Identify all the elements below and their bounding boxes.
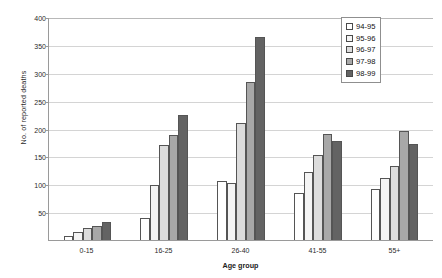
legend-label-97-98: 97-98 (356, 57, 375, 66)
legend-item-95-96[interactable]: 95-96 (346, 33, 375, 45)
bar-0-15-94-95[interactable] (64, 236, 74, 240)
bar-41-55-97-98[interactable] (323, 134, 333, 240)
legend-item-94-95[interactable]: 94-95 (346, 21, 375, 33)
bar-55+-97-98[interactable] (399, 131, 409, 240)
bar-0-15-96-97[interactable] (83, 228, 93, 240)
legend-swatch-98-99 (346, 70, 353, 77)
x-axis-title: Age group (48, 261, 433, 270)
y-tick-label-200: 200 (20, 126, 46, 133)
x-tick-label-26-40: 26-40 (202, 247, 279, 254)
legend: 94-9595-9696-9797-9898-99 (341, 17, 381, 83)
bar-55+-95-96[interactable] (380, 178, 390, 240)
bar-16-25-96-97[interactable] (159, 145, 169, 240)
x-tick-label-41-55: 41-55 (279, 247, 356, 254)
legend-swatch-94-95 (346, 23, 353, 30)
bars (140, 18, 188, 240)
legend-swatch-97-98 (346, 58, 353, 65)
x-axis-tick-labels: 0-1516-2526-4041-5555+ (48, 247, 433, 254)
bar-41-55-95-96[interactable] (304, 172, 314, 240)
bar-41-55-96-97[interactable] (313, 155, 323, 240)
bar-26-40-97-98[interactable] (246, 82, 256, 240)
x-tick-label-55+: 55+ (356, 247, 433, 254)
bar-16-25-94-95[interactable] (140, 218, 150, 240)
x-tick-label-16-25: 16-25 (125, 247, 202, 254)
bar-16-25-95-96[interactable] (150, 185, 160, 240)
legend-item-98-99[interactable]: 98-99 (346, 67, 375, 79)
bar-0-15-98-99[interactable] (102, 222, 112, 240)
bar-55+-96-97[interactable] (390, 166, 400, 240)
bar-chart: No. of reported deaths 50100150200250300… (0, 0, 442, 278)
x-tick-label-0-15: 0-15 (48, 247, 125, 254)
bar-group-0-15 (49, 18, 126, 240)
y-tick-label-50: 50 (20, 210, 46, 217)
bar-26-40-94-95[interactable] (217, 181, 227, 240)
legend-item-97-98[interactable]: 97-98 (346, 56, 375, 68)
bar-16-25-98-99[interactable] (178, 115, 188, 240)
y-tick-label-100: 100 (20, 182, 46, 189)
legend-swatch-95-96 (346, 35, 353, 42)
y-tick-label-400: 400 (20, 15, 46, 22)
bar-0-15-97-98[interactable] (92, 226, 102, 240)
y-tick-label-250: 250 (20, 98, 46, 105)
bar-26-40-98-99[interactable] (255, 37, 265, 240)
bar-55+-94-95[interactable] (371, 189, 381, 240)
bar-0-15-95-96[interactable] (73, 232, 83, 240)
bars (64, 18, 112, 240)
y-tick-label-150: 150 (20, 154, 46, 161)
legend-swatch-96-97 (346, 46, 353, 53)
legend-item-96-97[interactable]: 96-97 (346, 44, 375, 56)
bar-26-40-96-97[interactable] (236, 123, 246, 240)
legend-label-95-96: 95-96 (356, 34, 375, 43)
legend-label-94-95: 94-95 (356, 22, 375, 31)
bar-16-25-97-98[interactable] (169, 135, 179, 240)
legend-label-98-99: 98-99 (356, 69, 375, 78)
bar-group-26-40 (203, 18, 280, 240)
bars (294, 18, 342, 240)
bar-41-55-98-99[interactable] (332, 141, 342, 240)
legend-label-96-97: 96-97 (356, 45, 375, 54)
y-tick-label-350: 350 (20, 42, 46, 49)
bar-26-40-95-96[interactable] (227, 183, 237, 240)
bar-41-55-94-95[interactable] (294, 193, 304, 240)
bar-55+-98-99[interactable] (409, 144, 419, 240)
bars (217, 18, 265, 240)
bar-group-16-25 (126, 18, 203, 240)
y-tick-label-300: 300 (20, 70, 46, 77)
